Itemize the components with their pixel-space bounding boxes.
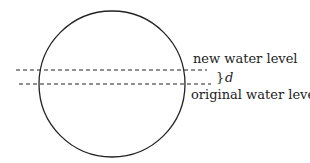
original-water-level-label: original water level xyxy=(191,87,310,102)
brace-symbol: } xyxy=(216,70,224,85)
d-label: d xyxy=(225,70,233,85)
new-water-level-label: new water level xyxy=(193,51,298,66)
water-level-diagram: new water level } d original water level xyxy=(0,0,310,163)
